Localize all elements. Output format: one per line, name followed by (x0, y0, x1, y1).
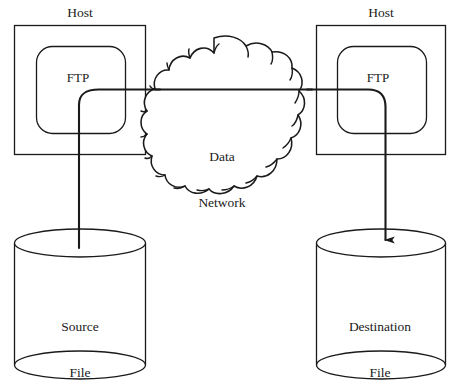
connection-ftp-to-destination-file (307, 90, 386, 241)
ftp-network-diagram: Host Host FTP FTP Data Network Source Fi… (0, 0, 453, 388)
source-file-label: Source File (16, 289, 144, 388)
destination-file-label: Destination File (316, 289, 444, 388)
source-file-label-line2: File (16, 365, 144, 380)
ftp-left-label: FTP (30, 71, 126, 86)
data-network-label-line1: Data (172, 149, 272, 164)
source-file-label-line1: Source (16, 319, 144, 334)
ftp-right-label: FTP (330, 71, 426, 86)
host-right-label: Host (316, 5, 446, 20)
data-network-label-line2: Network (172, 195, 272, 210)
host-left-label: Host (14, 5, 146, 20)
destination-file-label-line2: File (316, 365, 444, 380)
destination-file-label-line1: Destination (316, 319, 444, 334)
data-network-label: Data Network (172, 119, 272, 240)
